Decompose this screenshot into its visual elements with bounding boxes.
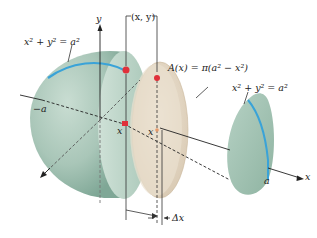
circle-equation-right: x² + y² = a² [232,83,288,93]
delta-x-label: Δx [172,213,184,223]
point-xy-left [123,67,130,74]
point-x-left [122,121,128,126]
point-xy-slice [154,75,160,81]
x-axis-label: x [305,172,310,182]
pos-a-label: a [264,176,270,186]
circle-equation-left: x² + y² = a² [24,37,80,47]
x-mark-slice: x [148,127,153,137]
point-xy-label: (x, y) [131,12,155,22]
area-formula: A(x) = π(a² − x²) [168,63,248,73]
cross-section-slice [130,62,188,198]
y-axis-label: y [96,14,101,24]
neg-a-label: −a [33,104,47,114]
x-mark-left: x [117,126,122,136]
point-x-slice [155,128,159,132]
